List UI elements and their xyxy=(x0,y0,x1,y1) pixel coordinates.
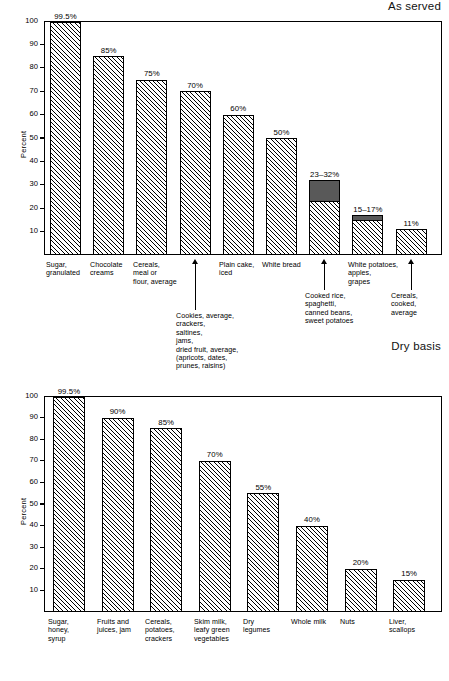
category-label-line: Liver, xyxy=(389,618,437,626)
category-label-line: crackers xyxy=(145,635,195,643)
bar xyxy=(247,493,279,612)
arrow-head-icon xyxy=(192,259,198,264)
category-label-line: Whole milk xyxy=(291,618,345,626)
bar xyxy=(223,115,254,255)
arrow-head-icon xyxy=(408,259,414,264)
category-label: Cereals,potatoes,crackers xyxy=(145,618,195,643)
y-tick-label: 30 xyxy=(20,543,38,551)
y-tick-mark xyxy=(40,417,44,418)
category-label-line: spaghetti, xyxy=(305,300,375,308)
chart-title-as-served: As served xyxy=(388,0,441,12)
category-label-line: syrup xyxy=(48,635,94,643)
category-label: Cereals,meal orflour, average xyxy=(133,261,183,286)
category-label: Cooked rice,spaghetti,canned beans,sweet… xyxy=(305,292,375,326)
category-label-line: Sugar, xyxy=(48,618,94,626)
category-label-line: vegetables xyxy=(194,635,246,643)
y-tick-mark xyxy=(40,184,44,185)
category-label: Sugar,granulated xyxy=(46,261,92,278)
y-tick-label: 40 xyxy=(20,521,38,529)
y-tick-mark xyxy=(40,208,44,209)
category-label-line: scallops xyxy=(389,626,437,634)
y-tick-mark xyxy=(40,137,44,138)
y-tick-label: 100 xyxy=(20,392,38,400)
callout-arrow-icon xyxy=(195,262,196,310)
bar xyxy=(150,428,182,612)
chart-panel-dry-basis: Dry basis Percent 100908070605040302010 … xyxy=(0,340,449,681)
category-label-line: meal or xyxy=(133,269,183,277)
bar xyxy=(296,526,328,612)
category-label-line: leafy green xyxy=(194,626,246,634)
category-label-line: Dry xyxy=(243,618,289,626)
category-label-line: canned beans, xyxy=(305,309,375,317)
category-label: Cereals,cooked,average xyxy=(391,292,439,317)
bar xyxy=(396,229,427,255)
category-label-line: Nuts xyxy=(340,618,380,626)
bar xyxy=(93,56,124,255)
category-label-line: granulated xyxy=(46,269,92,277)
y-tick-label: 90 xyxy=(20,40,38,48)
bar xyxy=(393,580,425,612)
bar-value-label: 20% xyxy=(335,558,387,567)
bar xyxy=(53,397,85,612)
bar-value-label: 99.5% xyxy=(43,387,95,396)
category-label-line: White potatoes, xyxy=(348,261,408,269)
category-label: Drylegumes xyxy=(243,618,289,635)
y-tick-mark xyxy=(40,67,44,68)
bar-value-label: 11% xyxy=(385,219,437,228)
category-label-line: Cookies, average, xyxy=(176,312,272,320)
category-label-line: Fruits and xyxy=(97,618,147,626)
category-label-line: White bread xyxy=(262,261,318,269)
category-label-line: Cereals, xyxy=(133,261,183,269)
y-tick-label: 20 xyxy=(20,204,38,212)
category-label-line: Plain cake, xyxy=(219,261,265,269)
category-label-line: cooked, xyxy=(391,300,439,308)
category-label: Skim milk,leafy greenvegetables xyxy=(194,618,246,643)
bar xyxy=(266,138,297,255)
y-tick-label: 50 xyxy=(20,500,38,508)
bar-value-label: 70% xyxy=(189,450,241,459)
category-label-line: Cooked rice, xyxy=(305,292,375,300)
bar-value-label: 50% xyxy=(256,128,308,137)
category-label-line: sweet potatoes xyxy=(305,317,375,325)
category-label-line: honey, xyxy=(48,626,94,634)
category-label-line: legumes xyxy=(243,626,289,634)
bar-range-segment xyxy=(352,215,383,221)
category-label-line: grapes xyxy=(348,278,408,286)
y-tick-label: 20 xyxy=(20,564,38,572)
category-label-line: flour, average xyxy=(133,278,183,286)
y-tick-label: 70 xyxy=(20,87,38,95)
category-label: Nuts xyxy=(340,618,380,626)
category-label-line: average xyxy=(391,309,439,317)
arrow-head-icon xyxy=(321,259,327,264)
bar xyxy=(309,201,340,255)
y-tick-mark xyxy=(40,590,44,591)
y-tick-label: 60 xyxy=(20,110,38,118)
category-label: Sugar,honey,syrup xyxy=(48,618,94,643)
y-tick-mark xyxy=(40,114,44,115)
y-tick-label: 10 xyxy=(20,586,38,594)
bar xyxy=(136,80,167,256)
y-tick-label: 10 xyxy=(20,227,38,235)
category-label: White potatoes,apples,grapes xyxy=(348,261,408,286)
category-label-line: Cereals, xyxy=(145,618,195,626)
bar xyxy=(102,418,134,612)
y-tick-label: 80 xyxy=(20,63,38,71)
bar-value-label: 85% xyxy=(83,46,135,55)
category-label-line: Skim milk, xyxy=(194,618,246,626)
y-tick-mark xyxy=(40,44,44,45)
y-tick-mark xyxy=(40,460,44,461)
category-label-line: juices, jam xyxy=(97,626,147,634)
category-label-line: crackers, xyxy=(176,320,272,328)
bar-value-label: 15–17% xyxy=(342,205,394,214)
bar-value-label: 40% xyxy=(286,515,338,524)
y-tick-label: 50 xyxy=(20,134,38,142)
category-label-line: Chocolate xyxy=(90,261,136,269)
y-tick-mark xyxy=(40,547,44,548)
y-tick-mark xyxy=(40,161,44,162)
callout-arrow-icon xyxy=(324,262,325,290)
category-label: Whole milk xyxy=(291,618,345,626)
category-label-line: Sugar, xyxy=(46,261,92,269)
y-tick-label: 90 xyxy=(20,413,38,421)
category-label: Chocolatecreams xyxy=(90,261,136,278)
y-tick-label: 70 xyxy=(20,456,38,464)
